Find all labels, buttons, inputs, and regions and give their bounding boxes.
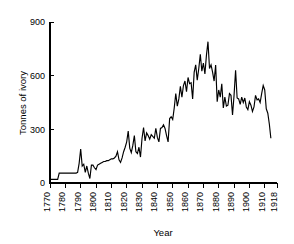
- series-line-ivory-imports: [50, 42, 271, 180]
- x-tick-label-1830: 1830: [134, 192, 144, 212]
- x-tick-label-1820: 1820: [119, 192, 129, 212]
- chart-canvas: 0300600900 17701780179018001810182018301…: [0, 0, 294, 244]
- x-axis-title: Year: [153, 227, 172, 238]
- ivory-imports-line-chart: 0300600900 17701780179018001810182018301…: [0, 0, 294, 244]
- x-tick-label-1900: 1900: [241, 192, 251, 212]
- x-tick-label-1918: 1918: [269, 192, 279, 212]
- x-tick-label-1780: 1780: [57, 192, 67, 212]
- x-tick-label-1860: 1860: [180, 192, 190, 212]
- x-axis-ticks: [50, 183, 277, 188]
- x-axis-tick-labels: 1770178017901800181018201830184018501860…: [42, 192, 279, 212]
- x-tick-label-1770: 1770: [42, 192, 52, 212]
- y-tick-label-600: 600: [30, 71, 45, 81]
- x-tick-label-1810: 1810: [103, 192, 113, 212]
- x-tick-label-1850: 1850: [165, 192, 175, 212]
- y-tick-label-300: 300: [30, 125, 45, 135]
- x-tick-label-1840: 1840: [149, 192, 159, 212]
- y-axis-title: Tonnes of ivory: [17, 71, 28, 135]
- y-tick-label-0: 0: [40, 178, 45, 188]
- data-series-group: [50, 42, 271, 180]
- x-tick-label-1790: 1790: [73, 192, 83, 212]
- y-axis-ticks: [50, 22, 54, 183]
- x-tick-label-1880: 1880: [211, 192, 221, 212]
- y-axis-tick-labels: 0300600900: [30, 17, 45, 188]
- y-tick-label-900: 900: [30, 17, 45, 27]
- x-tick-label-1890: 1890: [226, 192, 236, 212]
- x-tick-label-1910: 1910: [257, 192, 267, 212]
- x-tick-label-1870: 1870: [195, 192, 205, 212]
- x-tick-label-1800: 1800: [88, 192, 98, 212]
